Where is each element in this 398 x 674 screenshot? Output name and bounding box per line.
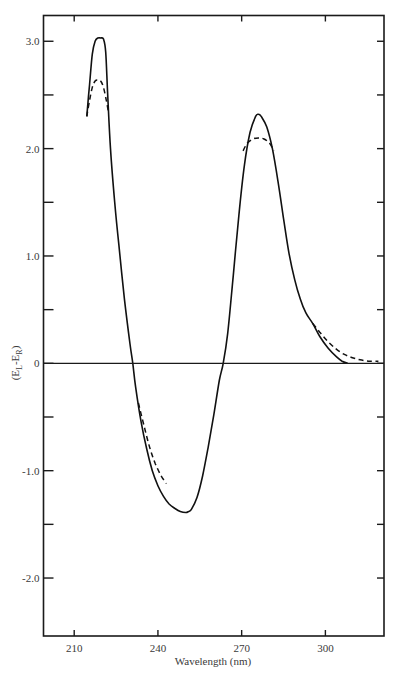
y-tick-label: 3.0 xyxy=(26,35,40,47)
y-tick-label: 2.0 xyxy=(26,143,40,155)
x-tick-label: 240 xyxy=(150,642,167,654)
y-axis-title-mid: -E xyxy=(9,354,21,365)
y-tick-label: 0 xyxy=(34,357,40,369)
y-tick-label: -1.0 xyxy=(22,465,40,477)
x-tick-label: 270 xyxy=(233,642,250,654)
cd-spectrum-chart: 2102402703003.02.01.00-1.0-2.0 Wavelengt… xyxy=(0,0,398,674)
solid-series-line xyxy=(87,38,348,513)
x-tick-label: 300 xyxy=(317,642,334,654)
x-tick-label: 210 xyxy=(66,642,83,654)
dashed-series-line xyxy=(313,324,379,362)
axis-ticks xyxy=(44,16,385,637)
y-axis-title-end: ) xyxy=(9,345,22,349)
x-axis-title: Wavelength (nm) xyxy=(175,655,252,668)
tick-labels: 2102402703003.02.01.00-1.0-2.0 xyxy=(22,35,334,654)
y-axis-title: (EL-ER) xyxy=(9,345,24,380)
y-axis-title-main: (E xyxy=(9,370,22,381)
y-tick-label: -2.0 xyxy=(22,572,40,584)
y-tick-label: 1.0 xyxy=(26,250,40,262)
series-layer xyxy=(87,38,379,513)
svg-text:(EL-ER): (EL-ER) xyxy=(9,345,24,380)
plot-frame xyxy=(44,16,385,637)
